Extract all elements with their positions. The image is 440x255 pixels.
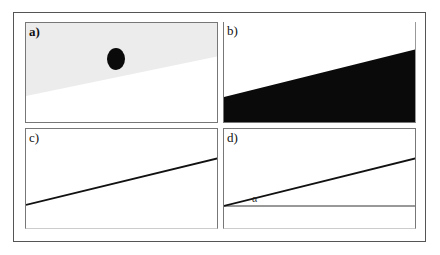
panel-c-graphic: [26, 129, 218, 229]
panel-b-graphic: [224, 22, 416, 123]
black-dot-icon: [107, 48, 125, 70]
panel-b-label: b): [227, 23, 238, 39]
panel-a: a): [25, 22, 218, 123]
panel-a-graphic: [26, 23, 218, 123]
black-region: [224, 49, 416, 123]
panel-d-graphic: [224, 129, 416, 229]
panel-c: c): [25, 128, 218, 229]
panel-a-label: a): [29, 24, 40, 40]
panel-b: b): [223, 22, 416, 123]
panel-d: d) α: [223, 128, 416, 229]
sloped-line: [26, 158, 218, 205]
angle-alpha-label: α: [252, 193, 257, 204]
panel-d-label: d): [227, 130, 238, 146]
panel-c-label: c): [29, 130, 39, 146]
